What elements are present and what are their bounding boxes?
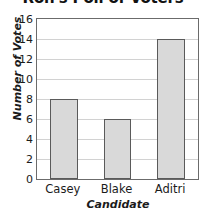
bars-layer (37, 19, 198, 179)
bar (104, 119, 132, 179)
bar (157, 39, 185, 179)
x-axis-tick-label: Aditri (143, 182, 197, 196)
y-axis-tick-label: 8 (3, 94, 33, 105)
y-axis-tick-label: 0 (3, 174, 33, 185)
y-axis-tick-label: 14 (3, 34, 33, 45)
x-axis-tick-label: Casey (36, 182, 90, 196)
bar-chart-figure: Ron's Poll of Voters Number of Votes 024… (0, 0, 206, 212)
bar (50, 99, 78, 179)
chart-title: Ron's Poll of Voters (0, 0, 206, 7)
y-axis-tick-label: 2 (3, 154, 33, 165)
x-axis-tick-label: Blake (90, 182, 144, 196)
y-axis-title: Number of Votes (11, 14, 24, 124)
y-axis-tick-label: 12 (3, 54, 33, 65)
x-axis-tick-labels: CaseyBlakeAditri (36, 182, 199, 198)
x-axis-title: Candidate (36, 198, 200, 211)
y-axis-tick-label: 16 (3, 14, 33, 25)
plot-area: 0246810121416 (36, 18, 199, 180)
y-axis-tick-label: 4 (3, 134, 33, 145)
y-axis-tick-label: 6 (3, 114, 33, 125)
y-axis-tick-label: 10 (3, 74, 33, 85)
